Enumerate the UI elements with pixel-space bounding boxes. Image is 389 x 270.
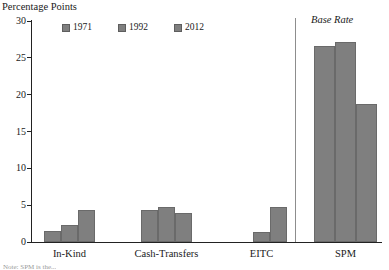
legend-item-1971[interactable]: 1971	[62, 23, 92, 33]
y-tick-label: 0	[21, 237, 26, 247]
bar-in-kind-2012	[78, 210, 95, 242]
y-tick-mark	[27, 242, 32, 243]
y-tick-mark	[27, 168, 32, 169]
bar-in-kind-1971	[44, 231, 61, 242]
y-tick-mark	[27, 94, 32, 95]
y-tick-label: 5	[21, 200, 26, 210]
bar-spm-1992	[335, 42, 356, 242]
y-tick-mark	[27, 131, 32, 132]
y-tick-label: 15	[16, 127, 26, 137]
legend-label: 2012	[185, 23, 204, 33]
base-rate-annotation: Base Rate	[311, 14, 353, 26]
x-axis-line	[31, 242, 382, 243]
y-axis-title: Percentage Points	[2, 1, 77, 13]
y-tick-mark	[27, 57, 32, 58]
bar-eitc-1992	[253, 232, 270, 242]
panel-divider-line	[295, 18, 296, 242]
category-label-spm: SPM	[286, 248, 389, 260]
y-tick-label: 30	[16, 16, 26, 26]
y-tick-label: 25	[16, 53, 26, 63]
legend-label: 1992	[129, 23, 148, 33]
legend-item-1992[interactable]: 1992	[118, 23, 148, 33]
bar-cash-transfers-1992	[158, 207, 175, 242]
legend-label: 1971	[73, 23, 92, 33]
bar-cash-transfers-2012	[175, 213, 192, 242]
bar-spm-2012	[356, 104, 377, 242]
legend-swatch-icon	[174, 24, 182, 32]
y-tick-mark	[27, 21, 32, 22]
chart-legend: 197119922012	[62, 22, 204, 34]
bar-spm-1971	[314, 46, 335, 242]
y-tick-label: 10	[16, 163, 26, 173]
bar-cash-transfers-1971	[141, 210, 158, 242]
legend-swatch-icon	[118, 24, 126, 32]
legend-item-2012[interactable]: 2012	[174, 23, 204, 33]
y-tick-label: 20	[16, 90, 26, 100]
source-note: Note: SPM is the...	[3, 263, 56, 270]
legend-swatch-icon	[62, 24, 70, 32]
bar-eitc-2012	[270, 207, 287, 242]
bar-in-kind-1992	[61, 225, 78, 242]
y-tick-mark	[27, 205, 32, 206]
bar-chart: Percentage Points 051015202530 197119922…	[0, 0, 389, 270]
